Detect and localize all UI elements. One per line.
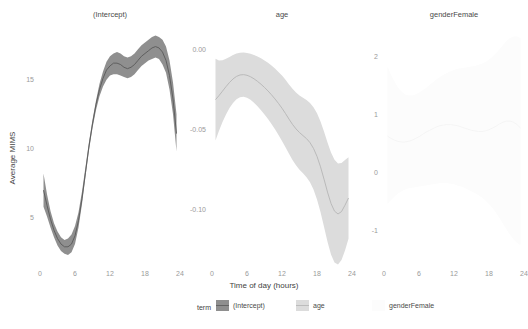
x-tick-label: 12 — [450, 270, 458, 277]
legend-label: (Intercept) — [233, 302, 265, 310]
x-axis-title: Time of day (hours) — [229, 281, 298, 290]
x-tick-label: 24 — [348, 270, 356, 277]
y-tick-label: 2 — [374, 53, 378, 60]
legend-label: age — [313, 302, 325, 310]
y-tick-label: 0.00 — [192, 46, 206, 53]
x-tick-label: 0 — [210, 270, 214, 277]
x-tick-label: 0 — [38, 270, 42, 277]
x-tick-label: 18 — [485, 270, 493, 277]
y-tick-label: 10 — [26, 145, 34, 152]
x-tick-label: 18 — [313, 270, 321, 277]
facet-plot-figure: Average MIMS Time of day (hours) (Interc… — [0, 0, 528, 329]
plot-canvas: Average MIMS Time of day (hours) (Interc… — [0, 0, 528, 329]
y-tick-label: 0 — [374, 169, 378, 176]
y-tick-label: 5 — [30, 214, 34, 221]
y-tick-label: -0.05 — [190, 126, 206, 133]
y-tick-label: 1 — [374, 111, 378, 118]
x-tick-label: 6 — [73, 270, 77, 277]
x-tick-label: 18 — [141, 270, 149, 277]
y-axis-title: Average MIMS — [8, 132, 17, 185]
x-tick-label: 12 — [278, 270, 286, 277]
legend-label: genderFemale — [389, 302, 434, 310]
x-tick-label: 24 — [520, 270, 528, 277]
y-tick-label: 15 — [26, 76, 34, 83]
legend-title: term — [197, 304, 211, 311]
y-tick-label: -1 — [372, 227, 378, 234]
facet-title: genderFemale — [430, 10, 478, 19]
facet-title: (Intercept) — [93, 10, 128, 19]
x-tick-label: 12 — [106, 270, 114, 277]
x-tick-label: 0 — [382, 270, 386, 277]
facet-title: age — [276, 10, 289, 19]
x-tick-label: 6 — [245, 270, 249, 277]
x-tick-label: 6 — [417, 270, 421, 277]
y-tick-label: -0.10 — [190, 206, 206, 213]
legend-swatch — [372, 300, 385, 311]
x-tick-label: 24 — [176, 270, 184, 277]
